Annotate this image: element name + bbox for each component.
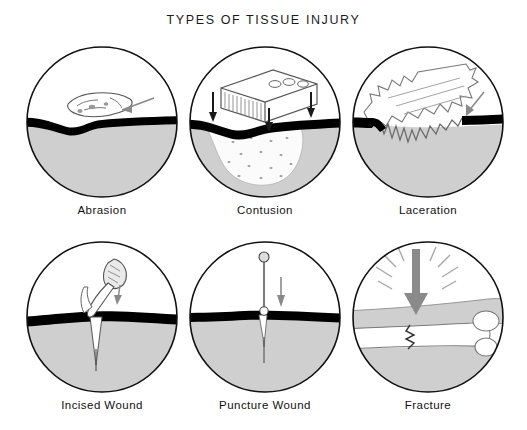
tissue-fill: [343, 124, 513, 207]
panel-fracture-illustration: [348, 237, 508, 397]
panel-laceration: Laceration: [348, 42, 508, 216]
tissue-fill: [17, 121, 187, 207]
panel-incised-wound-label: Incised Wound: [22, 399, 182, 411]
panel-contusion-label: Contusion: [185, 204, 345, 216]
panel-incised-wound-illustration: [22, 237, 182, 397]
panel-abrasion-illustration: [22, 42, 182, 202]
panel-abrasion-label: Abrasion: [22, 204, 182, 216]
panel-fracture: Fracture: [348, 237, 508, 411]
panel-incised-wound: Incised Wound: [22, 237, 182, 411]
tissue-injury-figure: TYPES OF TISSUE INJURY: [0, 0, 527, 430]
panel-contusion-illustration: [185, 42, 345, 202]
panel-puncture-wound-illustration: [185, 237, 345, 397]
panel-fracture-label: Fracture: [348, 399, 508, 411]
bone-condyle-upper: [473, 311, 499, 331]
figure-title: TYPES OF TISSUE INJURY: [0, 13, 527, 27]
panel-contusion: Contusion: [185, 42, 345, 216]
panel-laceration-label: Laceration: [348, 204, 508, 216]
tissue-fill: [17, 317, 187, 402]
panel-abrasion: Abrasion: [22, 42, 182, 216]
panel-puncture-wound: Puncture Wound: [185, 237, 345, 411]
panel-puncture-wound-label: Puncture Wound: [185, 399, 345, 411]
panel-laceration-illustration: [348, 42, 508, 202]
